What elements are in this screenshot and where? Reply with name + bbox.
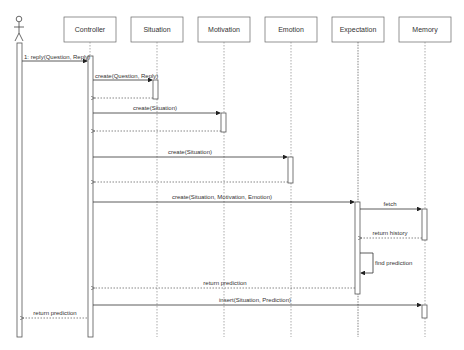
svg-text:fetch: fetch (383, 201, 396, 207)
lifeline-controller: Controller (64, 17, 116, 55)
svg-text:create(Situation, Motivation,: create(Situation, Motivation, Emotion) (172, 194, 272, 200)
controller-activation (88, 56, 93, 337)
svg-text:Motivation: Motivation (208, 26, 240, 33)
svg-text:return prediction: return prediction (33, 310, 76, 316)
svg-text:Controller: Controller (75, 26, 106, 33)
message-reply: 1: reply(Question, Reply) (22, 54, 90, 61)
actor-icon (14, 16, 24, 41)
svg-text:create(Situation): create(Situation) (133, 105, 177, 111)
svg-text:1: reply(Question, Reply): 1: reply(Question, Reply) (24, 54, 90, 60)
memory-activation-2 (422, 305, 427, 318)
message-return-prediction-controller: return prediction (94, 280, 355, 288)
svg-text:Memory: Memory (412, 26, 438, 34)
lifeline-situation: Situation (131, 17, 183, 337)
svg-text:create(Situation): create(Situation) (168, 149, 212, 155)
message-create-situation: create(Question, Reply) (93, 73, 158, 80)
lifeline-motivation: Motivation (198, 17, 250, 337)
memory-activation-1 (422, 209, 427, 240)
emotion-activation (288, 157, 293, 183)
message-insert: insert(Situation, Prediction) (93, 297, 421, 305)
svg-text:insert(Situation, Prediction): insert(Situation, Prediction) (219, 297, 291, 303)
svg-text:Situation: Situation (143, 26, 170, 33)
expectation-activation (355, 202, 360, 294)
message-return-prediction-actor: return prediction (23, 310, 87, 318)
situation-activation (153, 80, 158, 99)
svg-text:find prediction: find prediction (375, 260, 412, 266)
lifeline-memory: Memory (399, 17, 451, 337)
message-find-prediction: find prediction (360, 253, 412, 273)
svg-text:return history: return history (372, 230, 407, 236)
motivation-activation (221, 113, 226, 132)
message-create-emotion: create(Situation) (93, 149, 287, 157)
message-create-motivation: create(Situation) (93, 105, 220, 113)
sequence-diagram: Controller Situation Motivation Emotion … (0, 0, 464, 350)
message-fetch: fetch (360, 201, 421, 209)
svg-text:create(Question, Reply): create(Question, Reply) (95, 73, 158, 79)
svg-text:return prediction: return prediction (203, 280, 246, 286)
actor-activation (17, 43, 22, 337)
svg-text:Expectation: Expectation (340, 26, 377, 34)
message-return-history: return history (361, 230, 422, 238)
message-create-expectation: create(Situation, Motivation, Emotion) (93, 194, 354, 202)
svg-text:Emotion: Emotion (278, 26, 304, 33)
